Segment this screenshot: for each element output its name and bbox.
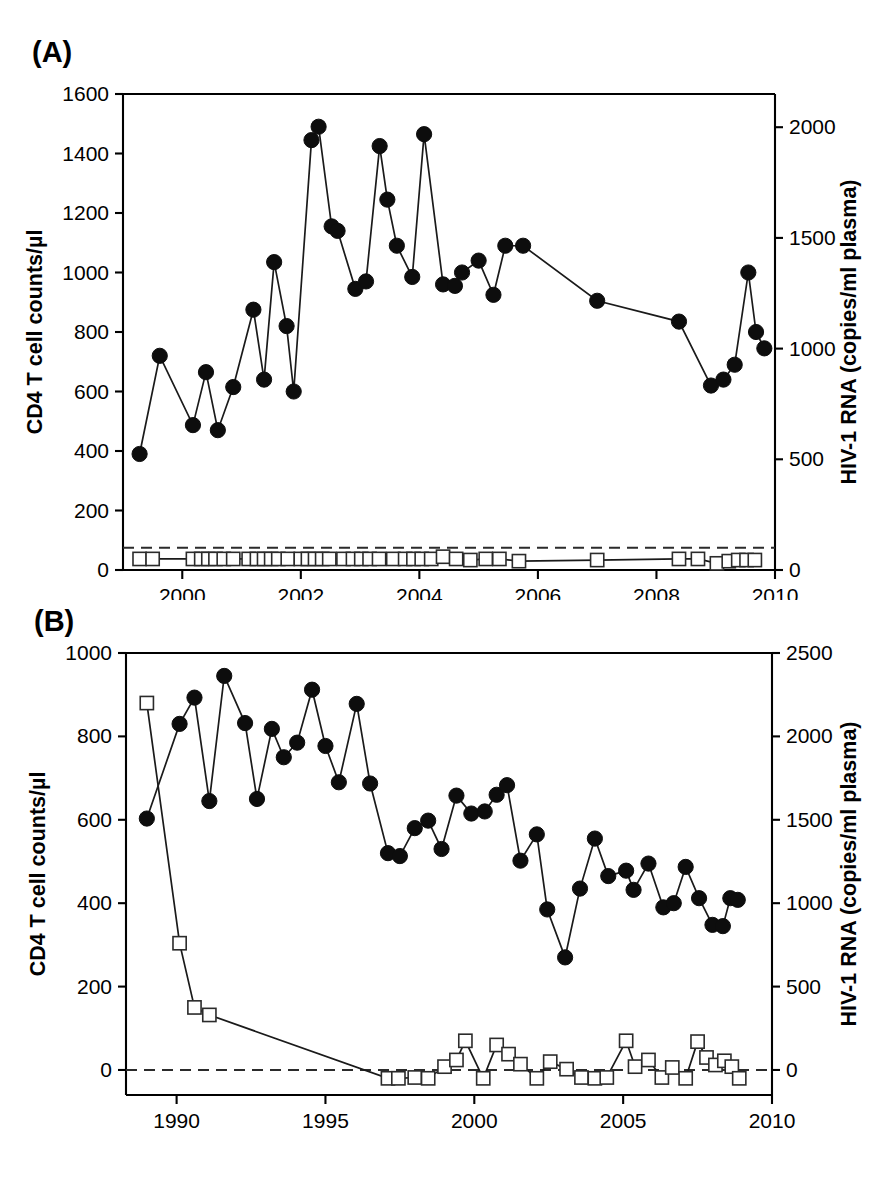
- data-point-cd4: [671, 314, 686, 329]
- data-point-cd4: [601, 868, 616, 883]
- data-point-cd4: [380, 192, 395, 207]
- x-tick-label: 2002: [277, 584, 324, 600]
- data-point-cd4: [716, 372, 731, 387]
- data-point-cd4: [407, 821, 422, 836]
- data-point-cd4: [691, 891, 706, 906]
- data-point-rna: [691, 552, 704, 565]
- data-point-cd4: [279, 318, 294, 333]
- data-point-rna: [560, 1063, 573, 1076]
- data-point-cd4: [210, 423, 225, 438]
- data-point-rna: [591, 553, 604, 566]
- data-point-rna: [679, 1072, 692, 1085]
- data-point-cd4: [202, 793, 217, 808]
- x-tick-label: 1990: [153, 1109, 200, 1132]
- right-tick-label: 1500: [786, 808, 833, 831]
- data-point-cd4: [152, 348, 167, 363]
- data-point-cd4: [267, 254, 282, 269]
- x-tick-label: 2008: [633, 584, 680, 600]
- data-point-cd4: [358, 274, 373, 289]
- data-point-cd4: [666, 896, 681, 911]
- right-tick-label: 500: [786, 975, 821, 998]
- right-tick-label: 1500: [789, 226, 836, 249]
- data-point-cd4: [389, 238, 404, 253]
- data-point-rna: [146, 552, 159, 565]
- left-tick-label: 200: [74, 499, 109, 522]
- data-point-rna: [600, 1071, 613, 1084]
- data-point-cd4: [626, 882, 641, 897]
- data-point-cd4: [678, 859, 693, 874]
- data-point-rna: [140, 696, 153, 709]
- x-tick-label: 2000: [159, 584, 206, 600]
- data-point-cd4: [619, 863, 634, 878]
- data-point-cd4: [486, 287, 501, 302]
- data-point-cd4: [572, 881, 587, 896]
- data-point-cd4: [587, 831, 602, 846]
- data-point-rna: [493, 552, 506, 565]
- data-point-rna: [748, 553, 761, 566]
- data-point-cd4: [276, 750, 291, 765]
- data-point-cd4: [757, 341, 772, 356]
- figure-container: (A) 020040060080010001200140016000500100…: [0, 0, 895, 1186]
- data-point-cd4: [454, 265, 469, 280]
- data-point-rna: [459, 1034, 472, 1047]
- data-point-rna: [436, 550, 449, 563]
- left-axis-title: CD4 T cell counts/µl: [23, 230, 47, 435]
- right-tick-label: 1000: [789, 337, 836, 360]
- data-point-rna: [133, 552, 146, 565]
- data-point-cd4: [311, 119, 326, 134]
- data-point-rna: [628, 1060, 641, 1073]
- x-tick-label: 2000: [451, 1109, 498, 1132]
- data-point-rna: [477, 1072, 490, 1085]
- data-point-rna: [672, 552, 685, 565]
- data-point-cd4: [185, 418, 200, 433]
- data-point-rna: [227, 552, 240, 565]
- x-tick-label: 2010: [749, 1109, 796, 1132]
- data-point-rna: [544, 1055, 557, 1068]
- data-point-rna: [512, 555, 525, 568]
- data-point-rna: [392, 1072, 405, 1085]
- data-point-rna: [575, 1071, 588, 1084]
- data-point-rna: [620, 1034, 633, 1047]
- data-point-cd4: [590, 293, 605, 308]
- left-tick-label: 600: [77, 808, 112, 831]
- left-tick-label: 1400: [62, 142, 109, 165]
- data-point-cd4: [187, 690, 202, 705]
- data-point-cd4: [471, 253, 486, 268]
- data-point-cd4: [477, 804, 492, 819]
- data-point-cd4: [264, 721, 279, 736]
- data-point-cd4: [715, 919, 730, 934]
- data-point-rna: [173, 937, 186, 950]
- x-tick-label: 2004: [396, 584, 443, 600]
- data-point-cd4: [246, 302, 261, 317]
- data-point-rna: [514, 1058, 527, 1071]
- left-tick-label: 1600: [62, 82, 109, 105]
- right-axis-title: HIV-1 RNA (copies/ml plasma): [837, 179, 861, 484]
- left-tick-label: 600: [74, 380, 109, 403]
- data-point-cd4: [330, 223, 345, 238]
- left-tick-label: 800: [77, 724, 112, 747]
- right-tick-label: 0: [789, 558, 801, 581]
- data-point-cd4: [363, 776, 378, 791]
- data-point-cd4: [237, 715, 252, 730]
- left-tick-label: 1200: [62, 201, 109, 224]
- data-point-cd4: [498, 238, 513, 253]
- data-point-rna: [281, 552, 294, 565]
- data-point-cd4: [727, 357, 742, 372]
- data-point-rna: [666, 1061, 679, 1074]
- data-point-rna: [323, 552, 336, 565]
- data-point-cd4: [558, 950, 573, 965]
- data-point-cd4: [172, 716, 187, 731]
- data-point-rna: [464, 553, 477, 566]
- data-point-cd4: [139, 811, 154, 826]
- data-point-cd4: [730, 892, 745, 907]
- data-point-cd4: [318, 738, 333, 753]
- data-point-rna: [691, 1035, 704, 1048]
- data-point-cd4: [331, 775, 346, 790]
- x-tick-label: 2005: [600, 1109, 647, 1132]
- left-tick-label: 200: [77, 975, 112, 998]
- data-point-cd4: [372, 138, 387, 153]
- panel-b: (B) 020040060080010000500100015002000250…: [0, 600, 895, 1186]
- data-point-cd4: [405, 269, 420, 284]
- data-point-cd4: [132, 446, 147, 461]
- right-tick-label: 2000: [786, 724, 833, 747]
